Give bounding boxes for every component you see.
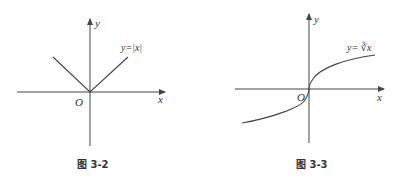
origin-label: O bbox=[75, 96, 83, 108]
function-label: y= ∛x bbox=[346, 41, 372, 53]
figure-3-2: y x O y=|x| 图 3-2 bbox=[17, 17, 165, 170]
figure-3-3: y x O y= ∛x 图 3-3 bbox=[235, 13, 384, 170]
figure-caption: 图 3-3 bbox=[296, 159, 328, 170]
figure-caption: 图 3-2 bbox=[77, 159, 109, 170]
origin-label: O bbox=[297, 91, 305, 103]
figure-canvas: y x O y=|x| 图 3-2 y x O y= ∛x 图 3-3 bbox=[0, 0, 398, 179]
y-axis-label: y bbox=[313, 13, 319, 25]
x-axis-label: x bbox=[376, 91, 382, 103]
function-label: y=|x| bbox=[120, 42, 142, 53]
y-axis-label: y bbox=[94, 17, 100, 29]
x-axis-label: x bbox=[157, 93, 163, 105]
